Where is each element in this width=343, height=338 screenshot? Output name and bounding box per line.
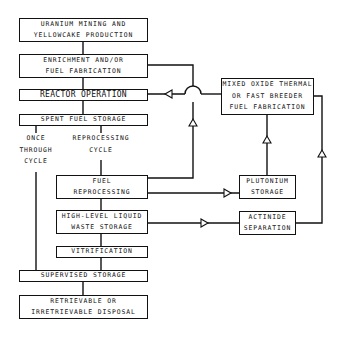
label-text: CYCLE (66, 145, 136, 157)
arrow-left-icon (165, 90, 172, 98)
node-spent-fuel-storage: SPENT FUEL STORAGE (19, 114, 148, 126)
node-vitrification: VITRIFICATION (56, 246, 148, 258)
node-text: WASTE STORAGE (71, 222, 133, 234)
arrow-right-icon (201, 219, 208, 227)
node-high-level-liquid-waste: HIGH-LEVEL LIQUID WASTE STORAGE (56, 210, 148, 234)
node-text: STORAGE (251, 187, 284, 199)
node-text: URANIUM MINING AND (41, 19, 126, 31)
node-text: FUEL (93, 176, 112, 188)
arrow-right-icon (224, 189, 231, 197)
node-reactor-operation: REACTOR OPERATION (19, 89, 148, 101)
connector-lines (0, 0, 343, 338)
node-text: SUPERVISED STORAGE (41, 270, 126, 282)
node-text: IRRETRIEVABLE DISPOSAL (31, 307, 135, 319)
arrow-up-icon (189, 119, 197, 126)
node-text: FUEL FABRICATION (46, 66, 122, 78)
label-reprocessing-cycle: REPROCESSING CYCLE (66, 133, 136, 156)
node-text: ENRICHMENT AND/OR (43, 55, 124, 67)
node-text: OR FAST BREEDER (232, 91, 303, 103)
node-text: SPENT FUEL STORAGE (41, 114, 126, 126)
node-text: ACTINIDE (249, 212, 287, 224)
node-plutonium-storage: PLUTONIUM STORAGE (239, 175, 296, 199)
node-actinide-separation: ACTINIDE SEPARATION (239, 211, 296, 235)
node-supervised-storage: SUPERVISED STORAGE (19, 270, 148, 282)
label-text: REPROCESSING (66, 133, 136, 145)
node-text: REACTOR OPERATION (40, 89, 127, 101)
node-text: YELLOWCAKE PRODUCTION (34, 30, 134, 42)
node-text: MIXED OXIDE THERMAL (222, 79, 312, 91)
node-text: HIGH-LEVEL LIQUID (62, 211, 143, 223)
node-mox-fabrication: MIXED OXIDE THERMAL OR FAST BREEDER FUEL… (221, 78, 314, 115)
node-text: FUEL FABRICATION (230, 102, 306, 114)
label-text: ONCE (14, 133, 58, 145)
node-text: RETRIEVABLE OR (50, 296, 116, 308)
label-once-through-cycle: ONCE THROUGH CYCLE (14, 133, 58, 168)
node-uranium-mining: URANIUM MINING AND YELLOWCAKE PRODUCTION (19, 18, 148, 42)
arrow-up-icon (318, 150, 326, 157)
node-text: SEPARATION (244, 223, 291, 235)
label-text: THROUGH (14, 145, 58, 157)
node-text: PLUTONIUM (246, 176, 289, 188)
label-text: CYCLE (14, 156, 58, 168)
node-fuel-reprocessing: FUEL REPROCESSING (56, 175, 148, 199)
node-text: VITRIFICATION (71, 246, 133, 258)
node-text: REPROCESSING (74, 187, 131, 199)
node-enrichment: ENRICHMENT AND/OR FUEL FABRICATION (19, 54, 148, 78)
arrow-up-icon (263, 136, 271, 143)
node-disposal: RETRIEVABLE OR IRRETRIEVABLE DISPOSAL (19, 295, 148, 319)
